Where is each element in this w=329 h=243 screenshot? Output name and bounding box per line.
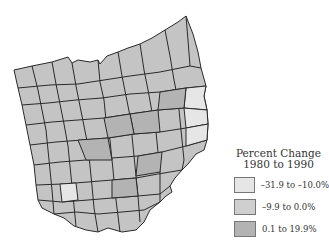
legend-title: Percent Change 1980 to 1990: [228, 148, 329, 170]
legend-label: 0.1 to 19.9%: [262, 224, 316, 234]
legend-item: 0.1 to 19.9%: [228, 220, 329, 238]
county-east-1: [184, 86, 207, 110]
legend-items: –31.9 to –10.0% –9.9 to 0.0% 0.1 to 19.9…: [228, 176, 329, 238]
county-southwest-1: [60, 183, 78, 202]
legend-title-line2: 1980 to 1990: [228, 159, 329, 170]
legend-swatch: [234, 177, 255, 193]
legend: Percent Change 1980 to 1990 –31.9 to –10…: [228, 148, 329, 242]
legend-swatch: [234, 221, 256, 237]
legend-item: –31.9 to –10.0%: [228, 176, 329, 194]
legend-swatch: [234, 199, 256, 215]
legend-item: –9.9 to 0.0%: [228, 198, 329, 216]
legend-label: –31.9 to –10.0%: [261, 180, 329, 190]
legend-label: –9.9 to 0.0%: [262, 202, 315, 212]
